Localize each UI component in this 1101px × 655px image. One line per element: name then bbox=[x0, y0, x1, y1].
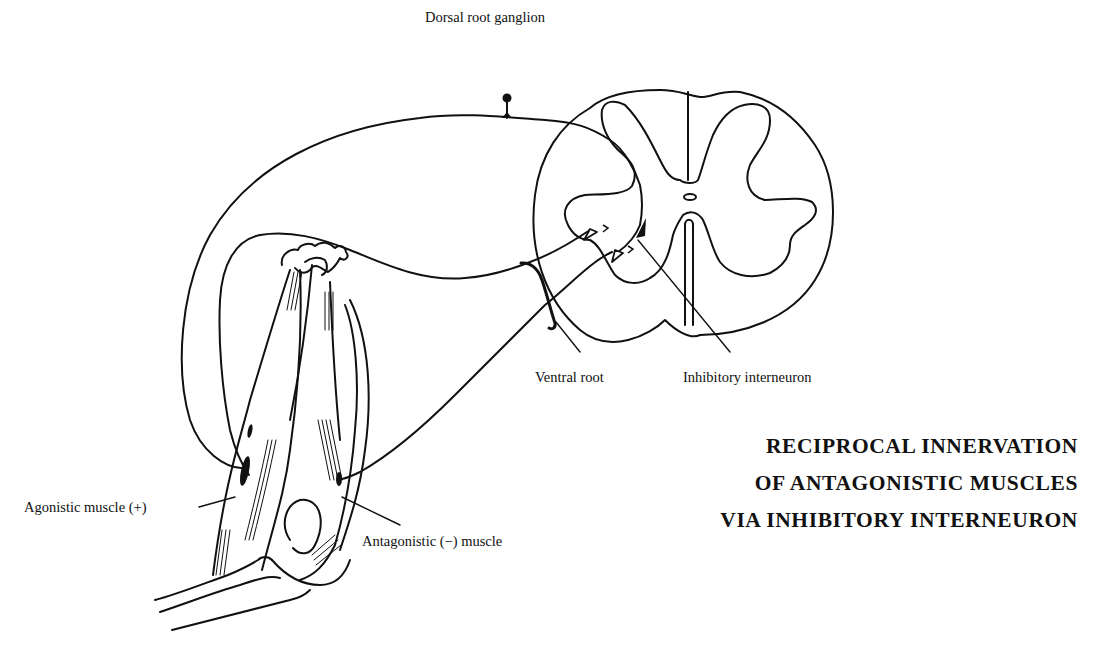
efferent-antagonist-fiber bbox=[342, 252, 612, 479]
diagram-title: RECIPROCAL INNERVATION OF ANTAGONISTIC M… bbox=[720, 428, 1078, 539]
antagonistic-muscle-label: Antagonistic (−) muscle bbox=[362, 534, 502, 549]
agonistic-muscle-label: Agonistic muscle (+) bbox=[24, 500, 147, 515]
gray-matter bbox=[565, 102, 816, 283]
excitatory-synapse-antagonist-icon bbox=[612, 250, 623, 262]
triceps-outer bbox=[340, 300, 369, 550]
elbow-olecranon bbox=[285, 500, 321, 554]
antagonist-endplate-icon bbox=[336, 472, 342, 486]
inhibitory-interneuron-label: Inhibitory interneuron bbox=[683, 370, 811, 385]
agonist-endplate-icon bbox=[246, 424, 253, 439]
central-canal bbox=[684, 194, 696, 200]
afferent-fiber bbox=[182, 115, 642, 468]
title-line-2: OF ANTAGONISTIC MUSCLES bbox=[720, 465, 1078, 502]
antagonist-leader bbox=[342, 497, 400, 525]
humerus-right bbox=[330, 282, 340, 440]
dorsal-root-ganglion-icon bbox=[503, 94, 512, 103]
ventral-median-fissure bbox=[685, 220, 693, 325]
agonist-leader bbox=[199, 497, 235, 507]
excitatory-synapse-agonist-icon bbox=[584, 229, 597, 240]
triceps-outline bbox=[300, 305, 357, 580]
synapse-arrow-ticks bbox=[603, 225, 633, 253]
ventral-root-bracket bbox=[521, 263, 555, 329]
title-line-3: VIA INHIBITORY INTERNEURON bbox=[720, 502, 1078, 539]
antagonist-striations bbox=[312, 292, 342, 565]
interneuron-fiber bbox=[618, 225, 640, 252]
ventral-root-label: Ventral root bbox=[535, 370, 604, 385]
biceps-outline-right bbox=[262, 270, 301, 570]
title-line-1: RECIPROCAL INNERVATION bbox=[720, 428, 1078, 465]
diagram-drawing bbox=[0, 0, 1101, 655]
reciprocal-innervation-diagram: Dorsal root ganglion Ventral root Inhibi… bbox=[0, 0, 1101, 655]
forearm-bottom bbox=[172, 590, 310, 630]
dorsal-root-ganglion-label: Dorsal root ganglion bbox=[425, 10, 545, 25]
ganglion-foot bbox=[502, 112, 512, 118]
elbow-outer bbox=[272, 560, 350, 585]
